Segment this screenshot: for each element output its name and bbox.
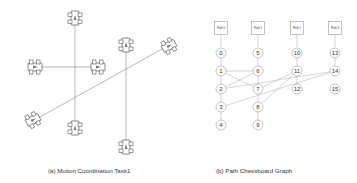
path-header-box: Path 3 — [329, 22, 342, 35]
robot-car-icon — [28, 60, 42, 74]
graph-node: 11 — [292, 66, 302, 76]
caption-path-chessboard-graph: (b) Path Chessboard Graph — [216, 167, 292, 174]
robot-car-icon — [68, 11, 82, 25]
graph-node: 3 — [216, 102, 226, 112]
robot-car-icon — [91, 60, 105, 74]
graph-node: 5 — [253, 48, 263, 58]
robot-path-line — [40, 49, 162, 117]
svg-text:14: 14 — [332, 68, 339, 74]
graph-node: 9 — [253, 120, 263, 130]
conflict-edge — [258, 71, 297, 89]
graph-node: 1 — [216, 66, 226, 76]
graph-node: 6 — [253, 66, 263, 76]
graph-node: 12 — [292, 84, 302, 94]
graph-node: 14 — [330, 66, 340, 76]
graph-node: 15 — [330, 84, 340, 94]
robot-car-icon — [119, 140, 133, 154]
path-header-box: Path 1 — [252, 22, 265, 35]
svg-text:13: 13 — [332, 50, 339, 56]
graph-node: 7 — [253, 84, 263, 94]
path-chessboard-graph-panel: Path 0Path 1Path 2Path 30123456789101112… — [215, 22, 342, 131]
robot-car-icon — [160, 37, 179, 56]
path-header-box: Path 2 — [291, 22, 304, 35]
svg-text:Path 2: Path 2 — [293, 26, 302, 30]
graph-node: 13 — [330, 48, 340, 58]
graph-node: 8 — [253, 102, 263, 112]
robot-car-icon — [24, 111, 43, 130]
caption-motion-coordination: (a) Motion Coordination Task1 — [48, 167, 130, 174]
conflict-edge — [258, 71, 297, 107]
graph-node: 2 — [216, 84, 226, 94]
svg-text:15: 15 — [332, 86, 339, 92]
conflict-edge — [221, 71, 335, 107]
graph-node: 4 — [216, 120, 226, 130]
svg-text:Path 0: Path 0 — [217, 26, 226, 30]
svg-text:12: 12 — [294, 86, 301, 92]
graph-node: 10 — [292, 48, 302, 58]
robot-car-icon — [119, 38, 133, 52]
robot-car-icon — [68, 121, 82, 135]
svg-text:Path 1: Path 1 — [254, 26, 263, 30]
motion-coordination-panel — [24, 11, 179, 154]
svg-text:11: 11 — [294, 68, 301, 74]
svg-text:10: 10 — [294, 50, 301, 56]
graph-node: 0 — [216, 48, 226, 58]
svg-text:Path 3: Path 3 — [331, 26, 340, 30]
figure-canvas: Path 0Path 1Path 2Path 30123456789101112… — [0, 0, 357, 183]
path-header-box: Path 0 — [215, 22, 228, 35]
